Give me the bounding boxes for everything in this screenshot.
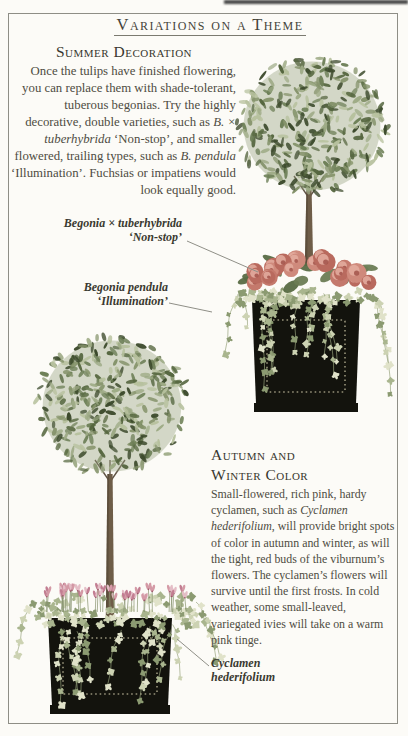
heading-line: Winter Color — [211, 465, 308, 485]
book-page: Variations on a Theme Summer Decoration … — [0, 0, 408, 736]
summer-section-heading: Summer Decoration — [10, 43, 238, 61]
label-line: ‘Illumination’ — [84, 294, 168, 308]
leader-line-nonstop — [187, 241, 258, 272]
summer-body-text: Once the tulips have finished flowering,… — [10, 63, 236, 199]
label-line: Cyclamen — [211, 656, 275, 670]
leader-line-illumination — [169, 303, 212, 312]
page-title: Variations on a Theme — [114, 15, 307, 36]
autumn-body-text: Small-flowered, rich pink, hardy cyclame… — [211, 486, 398, 648]
label-line: hederifolium — [211, 670, 275, 684]
label-line: ‘Non-stop’ — [64, 230, 182, 244]
autumn-section-heading: Autumn and Winter Color — [211, 445, 308, 485]
label-line: Begonia pendula — [84, 280, 168, 294]
autumn-planter-illustration — [12, 332, 228, 714]
label-begonia-pendula: Begonia pendula ‘Illumination’ — [84, 280, 168, 308]
page-title-row: Variations on a Theme — [0, 15, 408, 35]
label-cyclamen-hederifolium: Cyclamen hederifolium — [211, 656, 275, 684]
summer-planter-illustration — [220, 57, 395, 412]
leader-line-cyclamen — [177, 639, 209, 666]
heading-line: Autumn and — [211, 445, 308, 465]
scan-artifact-top-edge — [224, 0, 408, 4]
label-begonia-tuberhybrida: Begonia × tuberhybrida ‘Non-stop’ — [64, 216, 182, 244]
label-line: Begonia × tuberhybrida — [64, 216, 182, 230]
